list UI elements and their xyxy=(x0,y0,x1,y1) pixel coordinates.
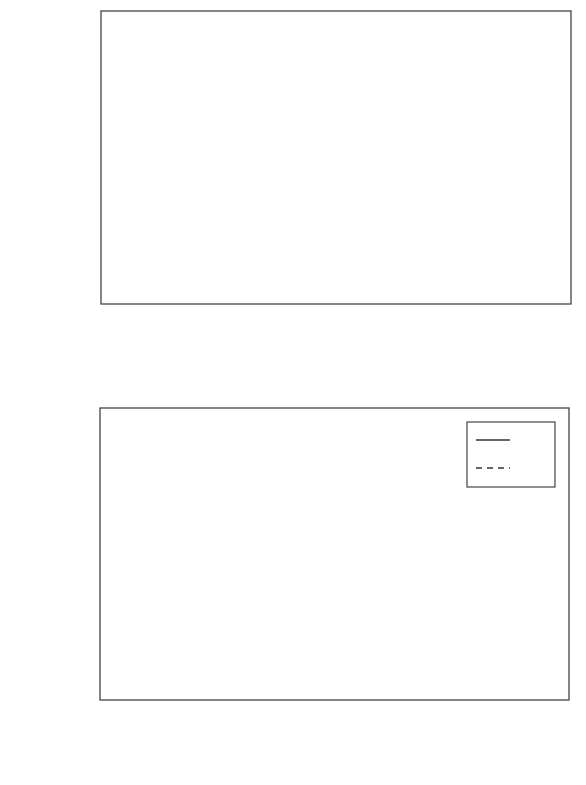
legend xyxy=(467,422,555,487)
figure xyxy=(0,0,586,785)
top-plot-frame xyxy=(101,11,571,304)
bottom-chart xyxy=(0,0,569,700)
legend-box xyxy=(467,422,555,487)
top-chart xyxy=(101,11,571,304)
